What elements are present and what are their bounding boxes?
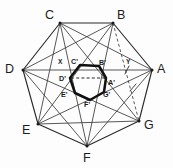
inner-vertex-label-E-prime: E' bbox=[61, 91, 68, 98]
inner-vertex-label-B-prime: B' bbox=[99, 59, 106, 66]
vertex-label-A: A bbox=[157, 63, 165, 76]
outer-heptagon-edges bbox=[23, 23, 152, 146]
diagonal-C-G bbox=[60, 23, 139, 121]
vertex-dot-C bbox=[59, 22, 62, 25]
vertex-dots bbox=[22, 22, 154, 148]
edge-E-F bbox=[38, 124, 87, 146]
vertex-dot-F bbox=[86, 145, 89, 148]
vertex-dot-A bbox=[151, 69, 154, 72]
vertex-dot-B bbox=[112, 22, 115, 25]
geometry-canvas bbox=[0, 0, 173, 168]
diagonal-C-F bbox=[60, 23, 87, 146]
vertex-label-G: G bbox=[144, 119, 154, 132]
edge-D-E bbox=[23, 70, 38, 124]
diagonal-E-G bbox=[38, 121, 139, 124]
aux-point-label-X: X bbox=[58, 59, 62, 66]
aux-point-label-Y: Y bbox=[126, 59, 130, 66]
inner-vertex-label-A-prime: A' bbox=[108, 79, 115, 86]
diagonal-D-F bbox=[23, 70, 87, 146]
inner-vertex-label-G-prime: G' bbox=[103, 91, 110, 98]
geometry-figure: A B C D E F G A' B' C' D' E' F' G' X Y bbox=[0, 0, 173, 168]
vertex-label-D: D bbox=[5, 63, 14, 76]
vertex-dot-E bbox=[37, 123, 40, 126]
vertex-dot-G bbox=[138, 120, 141, 123]
inner-vertex-label-F-prime: F' bbox=[84, 101, 90, 108]
heptagon-diagonals bbox=[23, 23, 152, 146]
vertex-label-C: C bbox=[45, 9, 54, 22]
edge-F-G bbox=[87, 121, 139, 146]
inner-vertex-label-C-prime: C' bbox=[71, 58, 78, 65]
vertex-label-B: B bbox=[117, 9, 125, 22]
vertex-label-E: E bbox=[22, 124, 30, 137]
vertex-label-F: F bbox=[83, 152, 91, 165]
inner-vertex-label-D-prime: D' bbox=[59, 75, 66, 82]
vertex-dot-D bbox=[22, 69, 25, 72]
